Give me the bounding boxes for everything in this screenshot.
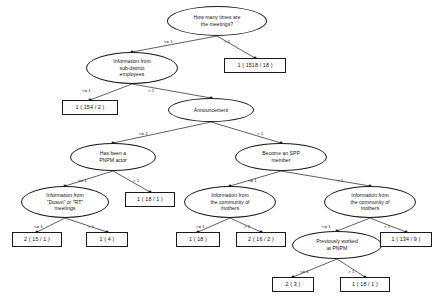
edge-n5-l5 bbox=[65, 218, 107, 232]
leaf-node-1-18-1: 1 ( 18 / 1 ) bbox=[125, 192, 175, 207]
leaf-node-1-154-2: 1 ( 154 / 2 ) bbox=[62, 100, 118, 115]
leaf-label: 2 ( 3 ) bbox=[284, 281, 303, 287]
decision-tree-diagram: How many times are the meetings?Informat… bbox=[0, 0, 434, 307]
leaf-node-1-4: 1 ( 4 ) bbox=[86, 232, 128, 247]
leaf-node-2-16-2: 2 ( 16 / 2 ) bbox=[236, 232, 286, 247]
decision-label: Information from the community of mother… bbox=[348, 192, 391, 212]
decision-label: Announcement bbox=[192, 107, 231, 114]
edge-label-n5-l5: > 1 bbox=[88, 224, 94, 229]
leaf-node-1-18-1: 1 ( 18 / 1 ) bbox=[340, 277, 390, 292]
leaf-node-2-15-1: 2 ( 15 / 1 ) bbox=[12, 232, 62, 247]
decision-label: Become an SPP member bbox=[260, 150, 302, 163]
edge-n8-l10 bbox=[337, 259, 365, 277]
decision-label: Previously worked at PNPM bbox=[314, 238, 360, 251]
leaf-label: 1 ( 18 / 1 ) bbox=[135, 196, 165, 202]
edge-n0-l1 bbox=[217, 36, 255, 58]
edge-n8-l9 bbox=[293, 259, 337, 277]
leaf-label: 1 ( 4 ) bbox=[98, 236, 117, 242]
leaf-label: 1 ( 1518 / 18 ) bbox=[235, 62, 274, 68]
edge-label-n3-n5: <= 1 bbox=[78, 178, 87, 183]
decision-label: Information from "Dusun" or "RT" meeting… bbox=[44, 192, 85, 212]
decision-node-previously-worked-at-pnpm: Previously worked at PNPM bbox=[292, 231, 382, 259]
decision-label: How many times are the meetings? bbox=[192, 14, 243, 27]
leaf-node-2-3: 2 ( 3 ) bbox=[272, 277, 314, 292]
decision-node-information-from-the-community-of-mothers: Information from the community of mother… bbox=[184, 186, 276, 218]
leaf-label: 1 ( 18 / 1 ) bbox=[350, 281, 380, 287]
edge-label-n8-l9: <= 1 bbox=[300, 269, 309, 274]
edge-n2-n3 bbox=[113, 122, 211, 143]
leaf-node-1-18: 1 ( 18 ) bbox=[176, 232, 220, 247]
decision-node-information-from-sub-district-employees: Information from sub-district employees bbox=[86, 52, 178, 84]
edge-label-n7-l8: > 1 bbox=[384, 224, 390, 229]
edge-n3-n5 bbox=[65, 171, 113, 186]
decision-node-become-an-spp-member: Become an SPP member bbox=[235, 143, 327, 171]
edge-label-n2-n3: <= 1 bbox=[139, 131, 148, 136]
decision-label: Information from the community of mother… bbox=[208, 192, 251, 212]
leaf-label: 1 ( 18 ) bbox=[187, 236, 209, 242]
edge-label-n7-n8: <= 1 bbox=[322, 224, 331, 229]
leaf-node-1-134-9: 1 ( 134 / 9 ) bbox=[380, 232, 432, 247]
edge-label-n0-l1: > 1 bbox=[224, 39, 230, 44]
decision-node-information-from-the-community-of-mothers: Information from the community of mother… bbox=[324, 186, 416, 218]
edge-n2-n4 bbox=[211, 122, 281, 143]
edge-label-n3-l3: > 1 bbox=[133, 178, 139, 183]
decision-label: Has been a PNPM actor bbox=[97, 150, 129, 163]
leaf-node-1-1518-18: 1 ( 1518 / 18 ) bbox=[224, 58, 286, 73]
edge-label-n1-n2: > 1 bbox=[148, 88, 154, 93]
edge-label-n6-l6: <= 1 bbox=[196, 224, 205, 229]
edge-n7-n8 bbox=[337, 218, 370, 231]
edge-label-n4-n6: <= 1 bbox=[248, 178, 257, 183]
edge-label-n4-n7: > 1 bbox=[337, 178, 343, 183]
edge-label-n8-l10: > 1 bbox=[348, 269, 354, 274]
leaf-label: 1 ( 134 / 9 ) bbox=[390, 236, 423, 242]
decision-node-information-from-dusun-or-rt-meetings: Information from "Dusun" or "RT" meeting… bbox=[21, 186, 109, 218]
edge-n0-n1 bbox=[132, 36, 217, 52]
edge-n3-l3 bbox=[113, 171, 150, 192]
edge-label-n6-l7: > 1 bbox=[244, 224, 250, 229]
edge-label-n5-l4: <= 1 bbox=[34, 224, 43, 229]
edge-label-n2-n4: > 1 bbox=[257, 131, 263, 136]
edge-layer bbox=[0, 0, 434, 307]
decision-node-has-been-a-pnpm-actor: Has been a PNPM actor bbox=[70, 143, 156, 171]
edge-n4-n7 bbox=[281, 171, 370, 186]
edge-label-n1-l2: <= 1 bbox=[82, 88, 91, 93]
decision-label: Information from sub-district employees bbox=[111, 58, 152, 78]
decision-node-how-many-times-are-the-meetings: How many times are the meetings? bbox=[167, 6, 267, 36]
edge-n1-l2 bbox=[90, 84, 132, 100]
edge-n1-n2 bbox=[132, 84, 211, 98]
leaf-label: 2 ( 15 / 1 ) bbox=[22, 236, 52, 242]
leaf-label: 2 ( 16 / 2 ) bbox=[246, 236, 276, 242]
edge-label-n0-n1: <= 1 bbox=[164, 39, 173, 44]
leaf-label: 1 ( 154 / 2 ) bbox=[74, 104, 107, 110]
decision-node-announcement: Announcement bbox=[168, 98, 254, 122]
